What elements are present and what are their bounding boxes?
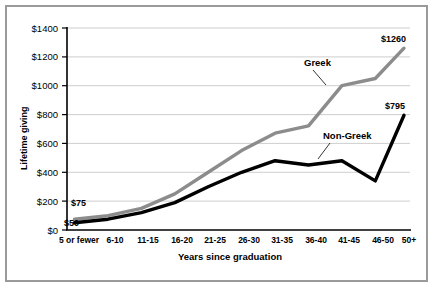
y-tick-label: $0 <box>47 225 58 236</box>
x-tick-label: 31-35 <box>271 235 293 245</box>
x-tick-label: 46-50 <box>372 235 394 245</box>
series-annotation-non-greek: Non-Greek <box>323 130 372 141</box>
x-axis-title: Years since graduation <box>178 251 282 262</box>
leader-line-greek <box>313 70 326 85</box>
x-tick-label: 16-20 <box>171 235 193 245</box>
y-tick-label: $1000 <box>32 80 58 91</box>
leader-line-non-greek <box>318 143 330 159</box>
point-label-non-greek-start: $50 <box>64 218 79 228</box>
x-tick-label: 36-40 <box>305 235 327 245</box>
y-axis-title: Lifetime giving <box>19 106 29 170</box>
x-tick-label: 5 or fewer <box>59 235 100 245</box>
x-tick-label: 26-30 <box>238 235 260 245</box>
x-tick-label: 41-45 <box>338 235 360 245</box>
point-label-greek-start: $75 <box>71 198 86 208</box>
series-annotation-greek: Greek <box>304 57 332 68</box>
y-tick-label: $1400 <box>32 23 58 34</box>
point-label-greek-end: $1260 <box>381 34 406 44</box>
x-tick-label: 6-10 <box>106 235 123 245</box>
x-tick-label: 21-25 <box>204 235 226 245</box>
y-tick-label: $400 <box>37 167 58 178</box>
x-axis-tick-labels: 5 or fewer 6-10 11-15 16-20 21-25 26-30 … <box>59 235 416 245</box>
y-tick-label: $200 <box>37 196 58 207</box>
y-tick-label: $600 <box>37 138 58 149</box>
y-axis-tick-labels: $1400 $1200 $1000 $800 $600 $400 $200 $0 <box>32 23 58 236</box>
y-tick-label: $1200 <box>32 51 58 62</box>
x-tick-label: 11-15 <box>137 235 159 245</box>
lifetime-giving-line-chart: $1400 $1200 $1000 $800 $600 $400 $200 $0… <box>0 0 437 291</box>
y-tick-label: $800 <box>37 109 58 120</box>
point-label-non-greek-end: $795 <box>385 101 405 111</box>
x-tick-label: 50+ <box>402 235 416 245</box>
